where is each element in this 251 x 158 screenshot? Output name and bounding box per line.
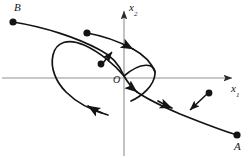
origin-label: O	[113, 75, 120, 85]
outer-pointer	[190, 94, 207, 110]
figure-canvas	[0, 0, 251, 158]
loop-arrowhead-lower	[88, 106, 102, 113]
point-B-dot	[9, 18, 16, 25]
phase-plane-figure: B A O x1 x2	[0, 0, 251, 158]
point-label-A: A	[234, 141, 241, 152]
trajectory-origin-to-A	[124, 76, 237, 135]
outer-pointer-arrow	[190, 94, 207, 110]
point-label-B: B	[14, 2, 21, 13]
trajectory-B-to-origin	[13, 22, 155, 76]
point-inner-arrow-tail-dot	[98, 61, 105, 68]
point-upper-curve-start-dot	[83, 29, 90, 36]
x2-axis-label: x2	[129, 2, 137, 16]
curve-upper-segment-1	[13, 22, 124, 76]
x1-axis-label-subscript: 1	[236, 91, 240, 99]
point-A-dot	[233, 131, 240, 138]
x1-axis-label: x1	[231, 83, 239, 97]
x2-axis-label-subscript: 2	[134, 10, 138, 18]
point-lower-arrow-tail-dot	[206, 90, 213, 97]
curve-lower-segment	[137, 92, 237, 135]
